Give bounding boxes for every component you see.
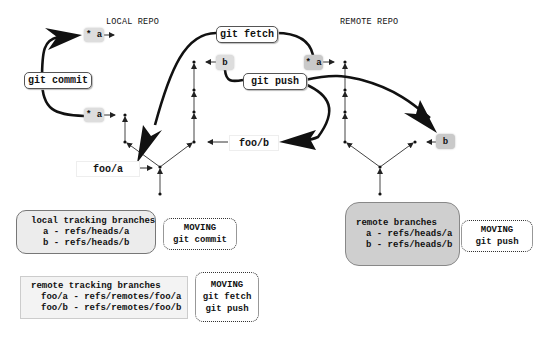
git-push-label: git push — [243, 73, 307, 90]
remote-ref-b: b — [436, 134, 455, 149]
local-repo-title: LOCAL REPO — [106, 16, 159, 28]
remote-ref-a: * a — [304, 55, 323, 70]
remote-branches-box: remote branches a - refs/heads/a b - ref… — [345, 202, 460, 266]
local-ref-b: b — [216, 55, 234, 70]
git-fetch-arrowhead — [137, 125, 162, 163]
local-tracking-title: local tracking branches — [31, 216, 155, 227]
remote-tracking-line-foo-b: foo/b - refs/remotes/foo/b — [31, 303, 187, 314]
local-tracking-branches-box: local tracking branches a - refs/heads/a… — [16, 210, 156, 254]
local-tracking-line-a: a - refs/heads/a — [31, 227, 155, 238]
remote-tracking-ref-foo-a: foo/a — [76, 161, 140, 177]
moving-command: git fetch — [203, 291, 252, 303]
remote-branches-moving-box: MOVING git push — [461, 220, 533, 252]
moving-command: git commit — [173, 234, 227, 246]
remote-branches-line-b: b - refs/heads/b — [356, 240, 459, 251]
remote-tracking-line-foo-a: foo/a - refs/remotes/foo/a — [31, 292, 187, 303]
git-push-foo-b-arrowhead — [279, 130, 316, 150]
git-fetch-label: git fetch — [216, 26, 278, 43]
moving-label: MOVING — [184, 222, 216, 234]
moving-command: git push — [205, 303, 248, 315]
local-tracking-moving-box: MOVING git commit — [163, 218, 237, 250]
local-ref-a-old: * a — [84, 108, 104, 122]
remote-branches-title: remote branches — [356, 218, 459, 229]
git-push-remote-arrowhead — [404, 100, 437, 133]
remote-tracking-branches-box: remote tracking branches foo/a - refs/re… — [20, 276, 188, 319]
moving-command: git push — [475, 236, 518, 248]
remote-branches-line-a: a - refs/heads/a — [356, 229, 459, 240]
remote-tracking-moving-box: MOVING git fetch git push — [195, 272, 259, 322]
remote-commit-graph — [345, 64, 413, 194]
git-commit-label: git commit — [24, 72, 92, 89]
remote-repo-title: REMOTE REPO — [340, 16, 398, 28]
remote-tracking-ref-foo-b: foo/b — [229, 135, 279, 151]
moving-label: MOVING — [211, 279, 243, 291]
local-ref-a-new: * a — [84, 28, 104, 42]
moving-label: MOVING — [481, 224, 513, 236]
remote-tracking-title: remote tracking branches — [31, 281, 187, 292]
local-tracking-line-b: b - refs/heads/b — [31, 238, 155, 249]
